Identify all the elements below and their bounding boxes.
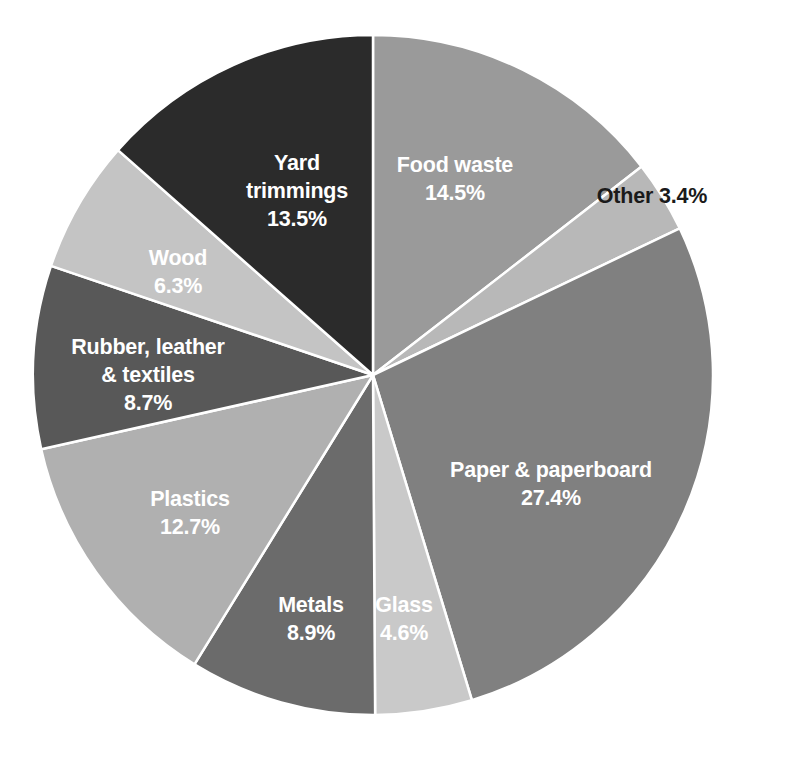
slice-label-other: Other 3.4% [597,184,707,208]
pie-chart-svg: Food waste14.5%Other 3.4%Paper & paperbo… [0,0,803,759]
pie-chart: Food waste14.5%Other 3.4%Paper & paperbo… [0,0,803,759]
